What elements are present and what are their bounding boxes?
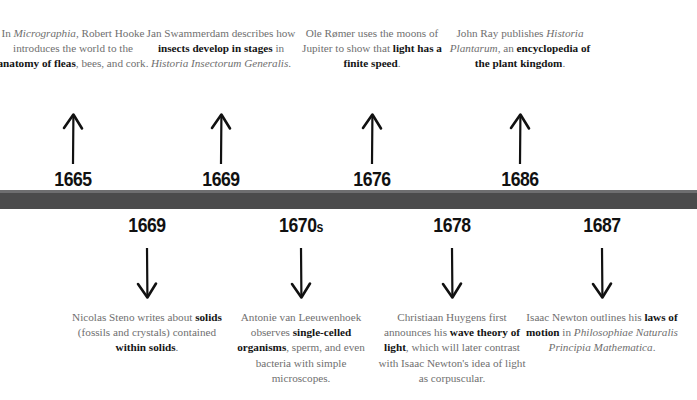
timeline-bar	[0, 190, 697, 209]
arrow-up-glyph	[505, 108, 535, 164]
arrow-up-glyph	[357, 108, 387, 164]
event-caption: John Ray publishes Historia Plantarum, a…	[444, 26, 596, 72]
year-label: 1676	[353, 168, 390, 191]
arrow-down-icon	[587, 248, 617, 308]
year-label: 1669	[202, 168, 239, 191]
year-value: 1686	[501, 168, 538, 190]
year-label: 1665	[54, 168, 91, 191]
year-label: 1687	[583, 214, 620, 237]
arrow-up-icon	[505, 108, 535, 168]
year-value: 1669	[202, 168, 239, 190]
timeline-bar-highlight	[0, 190, 697, 193]
event-caption: Nicolas Steno writes about solids (fossi…	[71, 310, 223, 356]
arrow-up-icon	[58, 108, 88, 168]
year-label: 1678	[433, 214, 470, 237]
arrow-down-icon	[132, 248, 162, 308]
event-caption: Isaac Newton outlines his laws of motion…	[526, 310, 678, 356]
timeline-infographic: In Micrographia, Robert Hooke introduces…	[0, 0, 697, 400]
year-value: 1687	[583, 214, 620, 236]
event-caption: Jan Swammerdam describes how insects dev…	[145, 26, 297, 72]
year-suffix: s	[316, 219, 322, 235]
arrow-up-icon	[206, 108, 236, 168]
arrow-down-icon	[437, 248, 467, 308]
arrow-up-icon	[357, 108, 387, 168]
event-caption: Ole Rømer uses the moons of Jupiter to s…	[296, 26, 448, 72]
arrow-down-icon	[286, 248, 316, 308]
year-label: 1686	[501, 168, 538, 191]
event-caption: Antonie van Leeuwenhoek observes single-…	[225, 310, 377, 386]
year-label: 1669	[128, 214, 165, 237]
arrow-down-glyph	[286, 248, 316, 304]
year-value: 1678	[433, 214, 470, 236]
year-value: 1670	[279, 214, 316, 236]
event-caption: Christiaan Huygens first announces his w…	[376, 310, 528, 386]
year-value: 1676	[353, 168, 390, 190]
year-label: 1670s	[279, 214, 323, 237]
arrow-up-glyph	[206, 108, 236, 164]
year-value: 1665	[54, 168, 91, 190]
arrow-up-glyph	[58, 108, 88, 164]
event-caption: In Micrographia, Robert Hooke introduces…	[0, 26, 149, 72]
arrow-down-glyph	[437, 248, 467, 304]
year-value: 1669	[128, 214, 165, 236]
arrow-down-glyph	[132, 248, 162, 304]
arrow-down-glyph	[587, 248, 617, 304]
